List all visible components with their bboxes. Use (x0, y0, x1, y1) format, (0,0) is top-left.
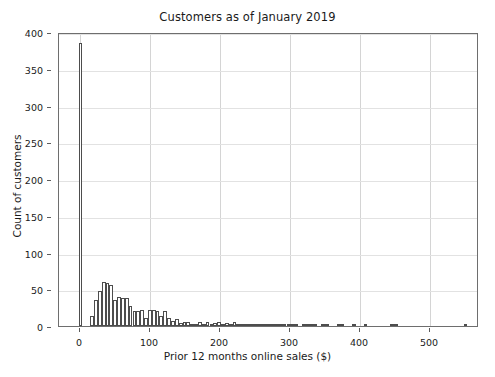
x-tick-mark (149, 328, 150, 332)
x-tick-mark (429, 328, 430, 332)
x-tick-mark (219, 328, 220, 332)
x-tick-label: 400 (350, 337, 368, 348)
histogram-bars (59, 34, 477, 326)
x-tick-label: 200 (210, 337, 228, 348)
y-tick-mark (47, 143, 51, 144)
chart-title: Customers as of January 2019 (0, 10, 495, 24)
histogram-bar (364, 324, 368, 326)
y-tick-label: 100 (25, 248, 43, 259)
histogram-bar (340, 324, 344, 326)
x-tick-mark (79, 328, 80, 332)
histogram-bar (394, 324, 398, 326)
y-tick-label: 300 (25, 101, 43, 112)
y-tick-label: 400 (25, 28, 43, 39)
y-tick-mark (47, 107, 51, 108)
histogram-bar (79, 43, 83, 326)
x-tick-label: 100 (140, 337, 158, 348)
plot-area (58, 33, 478, 327)
y-axis: Count of customers 050100150200250300350… (0, 0, 58, 377)
x-tick-mark (289, 328, 290, 332)
y-tick-label: 350 (25, 64, 43, 75)
histogram-bar (325, 324, 329, 326)
x-tick-label: 500 (420, 337, 438, 348)
histogram-bar (352, 324, 356, 326)
histogram-bar (464, 324, 468, 326)
y-tick-label: 200 (25, 175, 43, 186)
y-tick-mark (47, 290, 51, 291)
x-axis-label: Prior 12 months online sales ($) (0, 350, 495, 362)
histogram-bar (294, 324, 298, 326)
y-tick-mark (47, 217, 51, 218)
y-tick-mark (47, 180, 51, 181)
x-tick-label: 300 (280, 337, 298, 348)
y-tick-label: 250 (25, 138, 43, 149)
histogram-bar (313, 324, 317, 326)
y-tick-label: 150 (25, 211, 43, 222)
y-tick-mark (47, 70, 51, 71)
x-tick-mark (359, 328, 360, 332)
x-axis: Prior 12 months online sales ($) 0100200… (0, 327, 495, 377)
y-tick-mark (47, 254, 51, 255)
chart-figure: Customers as of January 2019 Count of cu… (0, 0, 495, 377)
y-tick-label: 50 (31, 285, 43, 296)
y-axis-label: Count of customers (11, 96, 23, 276)
y-tick-mark (47, 33, 51, 34)
x-tick-label: 0 (76, 337, 82, 348)
